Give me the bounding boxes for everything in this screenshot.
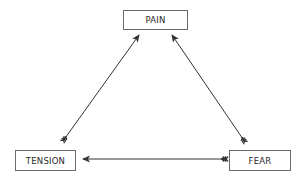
node-fear-label: FEAR — [249, 156, 272, 166]
node-pain-label: PAIN — [145, 15, 165, 25]
node-tension-label: TENSION — [26, 156, 65, 166]
arrow-tension-to-pain — [60, 35, 139, 143]
node-tension: TENSION — [15, 150, 76, 171]
node-pain: PAIN — [123, 10, 188, 30]
arrow-fear-to-pain — [172, 35, 248, 144]
fletching-icon — [60, 135, 68, 144]
fletching-icon — [221, 157, 228, 162]
node-fear: FEAR — [229, 150, 291, 171]
arrow-fear-to-tension — [83, 157, 228, 162]
fletching-icon — [240, 136, 248, 145]
fear-tension-pain-cycle-diagram: PAIN TENSION FEAR — [0, 0, 304, 180]
